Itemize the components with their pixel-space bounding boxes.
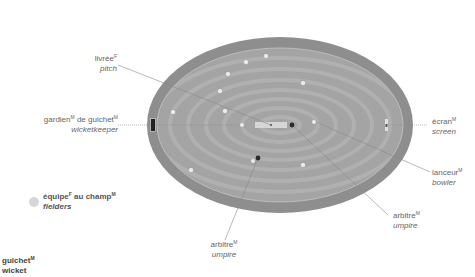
fielder	[188, 167, 193, 172]
label-wicketkeeper: gardienM de guichetM wicketkeeper	[30, 115, 118, 135]
fielder	[170, 109, 175, 114]
label-umpire-bottom: arbitreM umpire	[204, 240, 244, 260]
cricket-field-diagram	[0, 0, 475, 277]
fielder	[251, 159, 256, 164]
fielder	[222, 108, 227, 113]
fielder	[300, 80, 305, 85]
label-bowler: lanceurM bowler	[432, 168, 462, 188]
label-umpire-right: arbitreM umpire	[393, 211, 420, 231]
umpire-square-leg	[256, 156, 261, 161]
fielder	[263, 53, 268, 58]
fielder	[300, 162, 305, 167]
fielder	[217, 88, 222, 93]
fielder-legend-icon	[29, 197, 39, 207]
label-screen: écranM screen	[432, 117, 456, 137]
fielder	[225, 71, 230, 76]
fielder	[243, 59, 248, 64]
screen-left	[151, 119, 155, 131]
label-wicket: guichetM wicket	[2, 256, 35, 276]
label-fielders: équipeF au champM fielders	[43, 192, 116, 212]
fielder-bowler	[312, 120, 317, 125]
umpire-bowler-end	[290, 123, 295, 128]
fielder	[240, 123, 245, 128]
label-pitch: livréeF pitch	[82, 54, 117, 74]
